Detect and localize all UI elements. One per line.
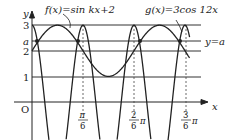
intersection-dot — [178, 39, 182, 43]
svg-text:π: π — [139, 116, 146, 126]
y-equals-a-label: y=a — [204, 36, 225, 47]
x-axis-arrow-icon — [201, 100, 208, 105]
y-tick-2: 2 — [23, 46, 29, 57]
y-axis-arrow-icon — [30, 11, 35, 18]
graph-diagram: y x O 3 a 2 1 f(x)=sin kx+2 g(x)=3cos 12… — [0, 0, 237, 140]
f-function-label: f(x)=sin kx+2 — [44, 4, 115, 15]
g-leader-line — [176, 20, 182, 32]
x-tick-pi-6: π 6 — [78, 110, 88, 131]
plot-canvas: y x O 3 a 2 1 f(x)=sin kx+2 g(x)=3cos 12… — [0, 0, 237, 140]
svg-text:6: 6 — [80, 121, 85, 131]
y-axis-label: y — [22, 8, 29, 19]
curve-g — [32, 25, 190, 140]
f-leader-line — [63, 14, 70, 28]
svg-text:6: 6 — [183, 121, 188, 131]
x-tick-3pi-6: 3 6 π — [181, 110, 198, 131]
y-tick-3: 3 — [23, 20, 29, 31]
svg-text:2: 2 — [131, 110, 136, 120]
x-tick-2pi-6: 2 6 π — [129, 110, 146, 131]
svg-text:π: π — [191, 116, 198, 126]
y-tick-1: 1 — [23, 72, 29, 83]
x-axis-label: x — [212, 101, 218, 112]
svg-text:3: 3 — [183, 110, 188, 120]
svg-text:π: π — [79, 110, 86, 120]
intersection-dot — [138, 39, 142, 43]
intersection-dot — [35, 39, 39, 43]
origin-label: O — [21, 104, 29, 115]
svg-text:6: 6 — [131, 121, 136, 131]
intersection-dot — [76, 39, 80, 43]
g-function-label: g(x)=3cos 12x — [145, 4, 218, 15]
